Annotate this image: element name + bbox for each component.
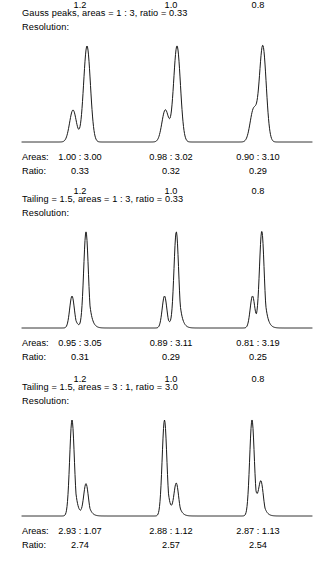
ratio-value-1: 0.32 — [131, 166, 211, 176]
areas-value-2: 0.81 : 3.19 — [218, 338, 298, 348]
areas-value-0: 1.00 : 3.00 — [40, 152, 120, 162]
areas-row: Areas: 0.95 : 3.05 0.89 : 3.11 0.81 : 3.… — [0, 338, 323, 351]
resolution-value-2: 0.8 — [218, 186, 298, 196]
ratio-row: Ratio: 0.33 0.32 0.29 — [0, 166, 323, 179]
resolution-value-0: 1.2 — [40, 186, 120, 196]
resolution-value-0: 1.2 — [40, 374, 120, 384]
chromatogram-figure: Gauss peaks, areas = 1 : 3, ratio = 0.33… — [0, 0, 323, 567]
ratio-value-1: 2.57 — [131, 540, 211, 550]
chromatogram-trace — [0, 404, 323, 522]
ratio-value-0: 0.33 — [40, 166, 120, 176]
ratio-value-2: 0.25 — [218, 352, 298, 362]
ratio-value-2: 0.29 — [218, 166, 298, 176]
chromatogram-trace — [0, 216, 323, 334]
areas-value-0: 2.93 : 1.07 — [40, 526, 120, 536]
resolution-value-2: 0.8 — [218, 0, 298, 10]
resolution-value-1: 1.0 — [131, 0, 211, 10]
panel-tailing-1to3: Tailing = 1.5, areas = 1 : 3, ratio = 0.… — [0, 186, 323, 375]
areas-value-2: 0.90 : 3.10 — [218, 152, 298, 162]
ratio-value-0: 2.74 — [40, 540, 120, 550]
resolution-value-2: 0.8 — [218, 374, 298, 384]
resolution-value-1: 1.0 — [131, 374, 211, 384]
areas-row: Areas: 2.93 : 1.07 2.88 : 1.12 2.87 : 1.… — [0, 526, 323, 539]
ratio-row: Ratio: 2.74 2.57 2.54 — [0, 540, 323, 553]
ratio-value-1: 0.29 — [131, 352, 211, 362]
areas-row: Areas: 1.00 : 3.00 0.98 : 3.02 0.90 : 3.… — [0, 152, 323, 165]
ratio-row: Ratio: 0.31 0.29 0.25 — [0, 352, 323, 365]
areas-value-2: 2.87 : 1.13 — [218, 526, 298, 536]
ratio-value-2: 2.54 — [218, 540, 298, 550]
resolution-value-1: 1.0 — [131, 186, 211, 196]
areas-value-1: 2.88 : 1.12 — [131, 526, 211, 536]
resolution-value-0: 1.2 — [40, 0, 120, 10]
panel-gauss-1to3: Gauss peaks, areas = 1 : 3, ratio = 0.33… — [0, 0, 323, 189]
areas-value-1: 0.98 : 3.02 — [131, 152, 211, 162]
chromatogram-trace — [0, 30, 323, 148]
areas-value-0: 0.95 : 3.05 — [40, 338, 120, 348]
panel-tailing-3to1: Tailing = 1.5, areas = 3 : 1, ratio = 3.… — [0, 374, 323, 563]
areas-value-1: 0.89 : 3.11 — [131, 338, 211, 348]
ratio-value-0: 0.31 — [40, 352, 120, 362]
